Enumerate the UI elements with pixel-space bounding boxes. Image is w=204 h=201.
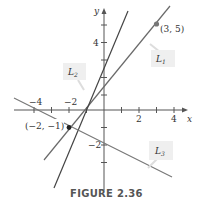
point-3-5 xyxy=(154,21,159,26)
x-tick-label--2: −2 xyxy=(64,97,77,107)
point-label-neg2-neg1: (−2, −1) xyxy=(25,121,64,131)
y-axis-label: y xyxy=(93,6,100,16)
point-label-3-5: (3, 5) xyxy=(160,24,184,34)
y-tick-label--2: −2 xyxy=(88,140,101,150)
point-neg2-neg1 xyxy=(67,125,72,130)
x-tick-label-4: 4 xyxy=(171,114,177,124)
line-L1 xyxy=(44,6,170,160)
callout-L1: L1 xyxy=(150,44,175,67)
y-axis-arrow-icon xyxy=(102,8,107,14)
figure-canvas: −4 −2 2 4 4 −2 x y (3, 5) (−2, −1) L1 L2… xyxy=(0,0,204,201)
x-axis-arrow-icon xyxy=(182,108,188,113)
x-tick-label-2: 2 xyxy=(136,114,142,124)
figure-caption: FIGURE 2.36 xyxy=(70,188,143,199)
y-tick-label-4: 4 xyxy=(93,38,99,48)
callout-L3: L3 xyxy=(148,141,173,168)
callout-L2: L2 xyxy=(63,63,86,90)
x-tick-label--4: −4 xyxy=(29,97,43,107)
x-axis-label: x xyxy=(187,114,192,124)
